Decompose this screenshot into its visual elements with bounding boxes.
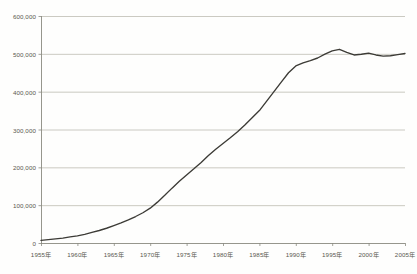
x-tick-label-2000: 2000年 <box>358 250 378 259</box>
line-chart: 0100,000200,000300,000400,000500,000600,… <box>0 0 417 274</box>
y-tick-label-100000: 100,000 <box>0 202 36 209</box>
y-tick-label-600000: 600,000 <box>0 13 36 20</box>
data-line-series-1 <box>41 49 405 240</box>
x-tick-label-1955: 1955年 <box>31 250 51 259</box>
x-tick-label-1970: 1970年 <box>140 250 160 259</box>
x-tick-label-1985: 1985年 <box>249 250 269 259</box>
y-tick-label-400000: 400,000 <box>0 88 36 95</box>
y-axis-ticks <box>39 17 42 244</box>
x-tick-label-1995: 1995年 <box>322 250 342 259</box>
x-tick-label-1960: 1960年 <box>67 250 87 259</box>
chart-plot-svg <box>0 0 417 274</box>
x-tick-label-1990: 1990年 <box>286 250 306 259</box>
gridlines <box>41 17 405 244</box>
y-tick-label-300000: 300,000 <box>0 126 36 133</box>
y-tick-label-500000: 500,000 <box>0 50 36 57</box>
x-tick-label-1965: 1965年 <box>104 250 124 259</box>
y-tick-label-200000: 200,000 <box>0 164 36 171</box>
x-tick-label-1980: 1980年 <box>213 250 233 259</box>
y-tick-label-0: 0 <box>0 240 36 247</box>
x-tick-label-1975: 1975年 <box>176 250 196 259</box>
x-tick-label-2005: 2005年 <box>395 250 415 259</box>
